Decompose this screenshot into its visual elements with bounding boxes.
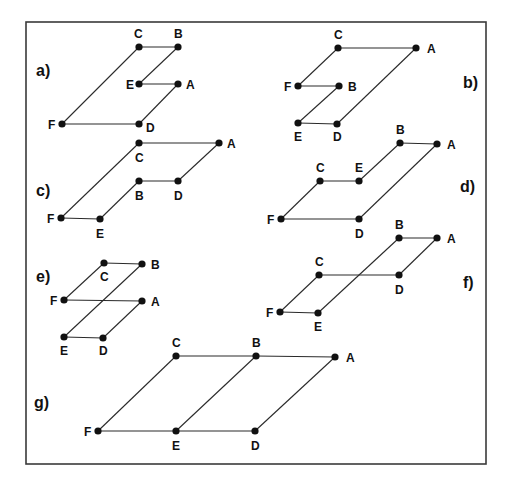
node-A [215,139,222,146]
node-label-E: E [314,320,322,334]
node-label-E: E [126,78,134,92]
node-label-B: B [174,27,183,41]
panels-group: CBEAFDa)CAFBEDb)CABDFEc)BACEFDd)CBFAEDe)… [34,27,478,453]
node-D [333,120,340,127]
node-A [433,140,440,147]
node-label-E: E [355,161,363,175]
node-label-D: D [395,283,404,297]
panel-label-f: f) [463,274,474,291]
node-E [294,119,301,126]
node-B [252,352,259,359]
node-label-E: E [60,344,68,358]
edge-D-A [178,143,219,181]
node-label-D: D [174,189,183,203]
node-label-C: C [315,255,324,269]
edge-D-A [103,301,142,338]
node-label-C: C [334,28,343,42]
node-label-B: B [395,218,404,232]
node-A [412,44,419,51]
node-label-B: B [348,80,357,94]
panel-label-g: g) [34,394,49,411]
node-label-A: A [151,295,160,309]
node-F [294,82,301,89]
node-label-E: E [172,439,180,453]
edge-D-A [359,144,437,219]
node-label-D: D [333,130,342,144]
edge-E-B [359,143,400,181]
panel-label-e: e) [36,268,50,285]
node-label-D: D [355,227,364,241]
edge-D-A [255,357,335,431]
node-C [172,352,179,359]
node-E [314,309,321,316]
edge-F-E [280,312,318,313]
node-label-F: F [48,118,55,132]
node-label-D: D [99,344,108,358]
node-label-C: C [316,161,325,175]
node-label-B: B [135,189,144,203]
node-label-B: B [396,123,405,137]
node-C [334,44,341,51]
node-C [100,259,107,266]
node-label-F: F [50,294,57,308]
node-D [251,427,258,434]
node-A [331,353,338,360]
node-B [395,234,402,241]
edge-F-C [281,181,320,219]
node-F [60,296,67,303]
panel-g: CBAFEDg) [34,336,355,453]
edge-F-E [61,218,100,219]
edge-B-A [400,143,437,144]
edge-E-D [298,123,337,124]
node-F [94,427,101,434]
node-label-F: F [284,80,291,94]
edge-F-C [280,275,319,312]
panel-label-a: a) [36,62,50,79]
node-B [174,43,181,50]
panel-f: BACDFEf) [266,218,474,334]
node-label-A: A [346,351,355,365]
node-label-B: B [151,258,160,272]
node-label-F: F [47,212,54,226]
node-C [135,43,142,50]
node-label-F: F [266,306,273,320]
node-D [99,334,106,341]
node-D [355,215,362,222]
node-label-A: A [227,137,236,151]
node-E [355,177,362,184]
edge-E-B [100,181,139,219]
node-D [135,120,142,127]
figure-frame [26,22,486,464]
node-label-C: C [134,27,143,41]
edge-F-C [64,263,104,300]
edge-B-E [139,47,178,84]
node-label-A: A [427,42,436,56]
edge-F-C [61,143,139,218]
node-C [315,271,322,278]
node-E [135,80,142,87]
edge-F-C [98,356,176,431]
edge-B-A [256,356,335,357]
panel-e: CBFAEDe) [36,258,160,358]
panel-c: CABDFEc) [36,137,236,241]
node-label-F: F [84,425,91,439]
node-label-C: C [172,336,181,350]
node-F [58,120,65,127]
panel-label-d: d) [460,178,475,195]
node-label-A: A [186,78,195,92]
node-label-F: F [267,213,274,227]
node-B [335,82,342,89]
node-A [174,80,181,87]
node-label-A: A [447,138,456,152]
node-D [395,271,402,278]
node-label-A: A [447,232,456,246]
node-label-B: B [252,336,261,350]
node-label-C: C [135,151,144,165]
node-label-D: D [251,439,260,453]
node-label-C: C [100,270,109,284]
edge-E-B [176,356,256,431]
node-D [174,177,181,184]
node-F [277,215,284,222]
node-B [396,139,403,146]
edge-E-D [64,337,103,338]
